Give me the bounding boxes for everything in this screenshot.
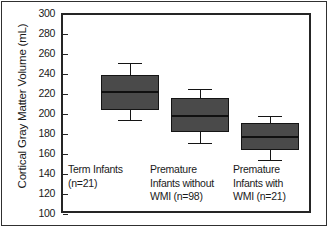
y-tick-label-100: 100 [21,208,55,219]
category-label-1: Term Infants (n=21) [68,163,148,190]
y-tick-label-120: 120 [21,188,55,199]
y-tick-label-220: 220 [21,88,55,99]
y-tick-label-240: 240 [21,68,55,79]
category-label-2: Premature Infants without WMI (n=98) [150,163,230,204]
upper-whisker-cap [258,116,282,117]
y-tick-label-160: 160 [21,148,55,159]
y-tick-label-280: 280 [21,28,55,39]
y-tick-label-180: 180 [21,128,55,139]
figure-container: Cortical Gray Matter Volume (mL) 3002802… [0,0,329,228]
y-tick-label-300: 300 [21,8,55,19]
lower-whisker-line [270,150,271,160]
median-line [241,136,299,138]
upper-whisker-line [270,116,271,123]
y-tick-label-140: 140 [21,168,55,179]
lower-whisker-cap [258,160,282,161]
category-label-3: Premature Infants with WMI (n=21) [233,163,313,204]
y-tick-label-200: 200 [21,108,55,119]
y-tick-label-260: 260 [21,48,55,59]
